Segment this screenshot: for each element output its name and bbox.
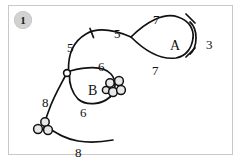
region-label-b: B [88, 84, 97, 98]
badge-number-label: 1 [14, 11, 32, 29]
cluster-circle [117, 86, 126, 95]
edge-label-tail-bottom: 8 [75, 146, 82, 159]
node-b-junction-icon [64, 70, 71, 77]
curve-diagram-canvas [0, 0, 244, 164]
edge-label-a-right: 3 [206, 38, 213, 51]
edge-label-spine-left: 5 [67, 41, 74, 54]
cluster-circle [44, 126, 53, 135]
edge-label-spine-right: 5 [114, 27, 121, 40]
cluster-circle [34, 125, 43, 134]
cluster-circle [115, 77, 124, 86]
figure-container: 1 A B 7 3 7 5 5 6 6 8 8 [0, 0, 244, 164]
figure-number-badge: 1 [14, 11, 32, 29]
cluster-circle [106, 79, 114, 87]
region-label-a: A [170, 39, 180, 53]
tail-bottom-curve [50, 129, 113, 142]
loop-a-lower [131, 37, 193, 58]
loop-a-upper [131, 16, 193, 38]
edge-label-tail-left: 8 [42, 96, 49, 109]
edge-label-a-top: 7 [153, 13, 160, 26]
circle-cluster-bottom-left [34, 118, 53, 135]
tick-spine-stroke [90, 29, 94, 38]
edge-label-b-top: 6 [98, 60, 105, 73]
edge-label-b-bottom: 6 [80, 106, 87, 119]
node-group [64, 70, 71, 77]
edge-label-a-bottom: 7 [152, 64, 159, 77]
